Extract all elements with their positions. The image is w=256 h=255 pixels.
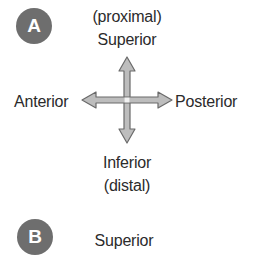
- panel-b-badge: B: [17, 219, 53, 255]
- label-superior-b: Superior: [74, 231, 174, 251]
- directional-arrows-icon: [0, 0, 256, 255]
- panel-b-badge-label: B: [28, 226, 42, 248]
